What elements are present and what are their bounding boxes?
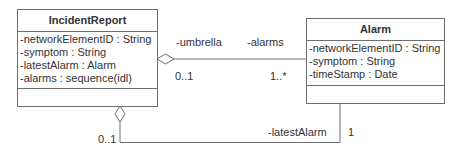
class-name: Alarm: [307, 19, 444, 41]
role-alarms: -alarms: [247, 36, 284, 48]
multiplicity-latest-report: 0..1: [98, 133, 116, 145]
aggregation-diamond-latest: [115, 106, 125, 122]
attribute: -symptom : String: [309, 55, 444, 68]
attribute: -latestAlarm : Alarm: [20, 59, 157, 72]
attribute: -timeStamp : Date: [309, 68, 444, 81]
attribute: -symptom : String: [20, 46, 157, 59]
attribute: -networkElementID : String: [20, 33, 157, 46]
attributes-compartment: -networkElementID : String -symptom : St…: [18, 32, 157, 89]
class-incident-report[interactable]: IncidentReport -networkElementID : Strin…: [17, 9, 158, 107]
multiplicity-umbrella: 0..1: [175, 70, 193, 82]
aggregation-diamond-umbrella: [157, 54, 174, 64]
class-name: IncidentReport: [18, 10, 157, 32]
attributes-compartment: -networkElementID : String -symptom : St…: [307, 41, 444, 86]
class-alarm[interactable]: Alarm -networkElementID : String -sympto…: [306, 18, 445, 104]
multiplicity-latest-alarm: 1: [348, 126, 354, 138]
role-latest-alarm: -latestAlarm: [268, 126, 327, 138]
multiplicity-alarms: 1..*: [270, 70, 287, 82]
role-umbrella: -umbrella: [176, 36, 222, 48]
attribute: -alarms : sequence(idl): [20, 72, 157, 85]
attribute: -networkElementID : String: [309, 42, 444, 55]
